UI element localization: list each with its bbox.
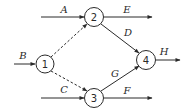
node-2: 2 xyxy=(85,8,104,27)
edge-c-label: C xyxy=(60,84,68,95)
node-3-label: 3 xyxy=(91,93,97,104)
edge-d-label: D xyxy=(123,27,132,38)
dummy-edge-1-2 xyxy=(51,24,87,57)
edge-b-label: B xyxy=(18,50,26,61)
node-1-label: 1 xyxy=(42,59,48,70)
diagram-svg: A B C D E F G H 1 2 xyxy=(0,0,186,112)
edge-h-label: H xyxy=(159,46,169,57)
edge-g-arrow-icon xyxy=(101,66,139,91)
edge-a-label: A xyxy=(59,4,67,15)
node-3: 3 xyxy=(85,89,104,108)
dummy-edge-1-3 xyxy=(51,71,87,91)
node-2-label: 2 xyxy=(91,12,97,23)
edge-a: A xyxy=(41,4,84,18)
node-1: 1 xyxy=(36,55,54,73)
edge-c: C xyxy=(41,84,84,99)
edge-d-arrow-icon xyxy=(101,24,139,53)
edge-d: D xyxy=(101,24,139,53)
edge-f: F xyxy=(104,85,152,99)
node-4-label: 4 xyxy=(143,55,149,66)
edge-g: G xyxy=(101,66,139,91)
edge-h: H xyxy=(156,46,180,61)
edge-b: B xyxy=(14,50,35,65)
edge-g-label: G xyxy=(111,68,119,79)
node-4: 4 xyxy=(137,51,156,70)
edge-e: E xyxy=(104,4,152,18)
network-diagram: A B C D E F G H 1 2 xyxy=(0,0,186,112)
edge-f-label: F xyxy=(123,85,132,96)
edge-e-label: E xyxy=(122,4,131,15)
